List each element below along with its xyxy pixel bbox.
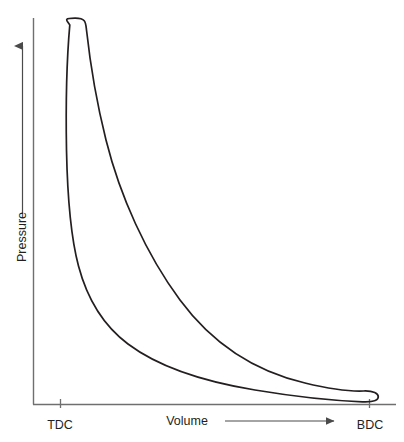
x-axis-title: Volume [166, 414, 208, 428]
figure-root: Pressure TDC BDC Volume [0, 0, 404, 442]
y-axis-title: Pressure [15, 212, 29, 262]
figure-background [0, 0, 404, 442]
x-axis-tick-label-bdc: BDC [357, 418, 383, 432]
pv-indicator-diagram: Pressure TDC BDC Volume [0, 0, 404, 442]
x-axis-tick-label-tdc: TDC [47, 418, 73, 432]
